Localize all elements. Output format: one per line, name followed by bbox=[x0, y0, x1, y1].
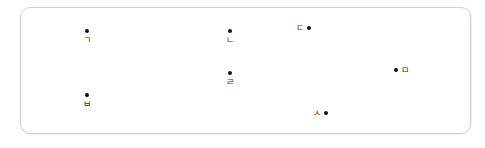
dot-marker bbox=[85, 29, 89, 33]
dot-marker bbox=[228, 71, 232, 75]
point-label: ㄷ bbox=[296, 24, 304, 33]
point-rieul: ㄹ bbox=[223, 71, 237, 87]
point-label: ㅅ bbox=[313, 109, 321, 118]
point-siot: ㅅ bbox=[313, 108, 331, 118]
dot-marker bbox=[307, 26, 311, 30]
point-label: ㄱ bbox=[83, 36, 91, 45]
point-label: ㄹ bbox=[226, 78, 234, 87]
point-giyeok: ㄱ bbox=[80, 29, 94, 45]
dot-marker bbox=[394, 68, 398, 72]
point-mieum: ㅁ bbox=[391, 65, 409, 75]
point-label: ㅁ bbox=[401, 66, 409, 75]
point-bieup: ㅂ bbox=[80, 93, 94, 109]
point-label: ㅂ bbox=[83, 100, 91, 109]
point-nieun: ㄴ bbox=[223, 29, 237, 45]
dot-marker bbox=[324, 111, 328, 115]
point-digeut: ㄷ bbox=[296, 23, 314, 33]
point-label: ㄴ bbox=[226, 36, 234, 45]
dot-marker bbox=[228, 29, 232, 33]
dot-marker bbox=[85, 93, 89, 97]
